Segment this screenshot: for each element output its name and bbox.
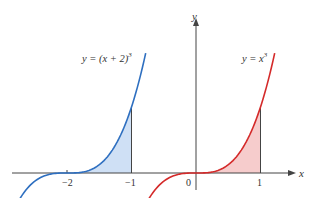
tick-label-neg2: −2 [62, 177, 73, 188]
equation-label-red: y = x3 [241, 51, 268, 64]
shaded-area-blue [67, 107, 132, 173]
origin-label: 0 [186, 177, 191, 188]
exponent: 3 [263, 51, 268, 59]
y-axis-label: y [191, 10, 197, 22]
y-axis [193, 18, 199, 190]
tick-label-1: 1 [257, 177, 262, 188]
shaded-area-red [196, 107, 261, 173]
exponent: 3 [127, 51, 132, 59]
tick-label-neg1: −1 [125, 177, 136, 188]
x-axis-arrow-icon [288, 170, 296, 176]
cubic-translation-diagram: y x 0 −2 −1 1 y = (x + 2)3 y = x3 [0, 0, 316, 198]
equation-label-blue: y = (x + 2)3 [81, 51, 132, 65]
x-axis-label: x [298, 167, 304, 179]
